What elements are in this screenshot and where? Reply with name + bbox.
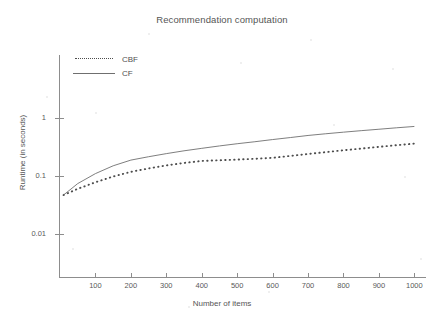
x-tick-mark — [379, 273, 380, 278]
legend-swatch-solid-icon — [72, 68, 116, 78]
x-tick-label: 700 — [288, 281, 328, 290]
y-tick-mark — [55, 234, 64, 235]
scan-speck — [310, 39, 312, 41]
x-tick-mark — [414, 273, 415, 278]
x-tick-label: 500 — [217, 281, 257, 290]
x-axis-title: Number of items — [0, 299, 444, 308]
x-tick-mark — [308, 273, 309, 278]
y-tick-label: 0.01 — [0, 229, 46, 238]
legend-item-cbf[interactable]: CBF — [72, 52, 192, 66]
scan-speck — [420, 258, 422, 260]
scan-speck — [148, 33, 150, 35]
scan-speck — [268, 291, 270, 293]
scan-speck — [404, 176, 406, 178]
scan-speck — [333, 124, 335, 126]
chart-title: Recommendation computation — [0, 14, 444, 25]
x-axis-line — [59, 277, 426, 278]
y-axis-title: Runtime (in seconds) — [18, 83, 27, 223]
series-plot — [0, 0, 444, 324]
x-tick-mark — [202, 273, 203, 278]
x-tick-mark — [166, 273, 167, 278]
x-tick-mark — [343, 273, 344, 278]
x-tick-label: 900 — [359, 281, 399, 290]
series-line-cf — [64, 126, 415, 195]
y-axis-line — [59, 55, 60, 278]
scan-speck — [392, 68, 394, 70]
legend-item-cf[interactable]: CF — [72, 66, 192, 80]
legend-swatch-dotted-icon — [72, 54, 116, 64]
chart-figure: Recommendation computation 10.10.01 1002… — [0, 0, 444, 324]
x-tick-label: 600 — [253, 281, 293, 290]
x-tick-mark — [237, 273, 238, 278]
x-tick-mark — [95, 273, 96, 278]
x-tick-mark — [131, 273, 132, 278]
legend-label: CBF — [116, 55, 138, 64]
x-tick-label: 1000 — [394, 281, 434, 290]
x-tick-label: 100 — [75, 281, 115, 290]
y-tick-mark — [55, 176, 64, 177]
legend-label: CF — [116, 69, 133, 78]
scan-speck — [95, 112, 97, 114]
x-tick-label: 800 — [323, 281, 363, 290]
x-tick-mark — [273, 273, 274, 278]
x-tick-label: 200 — [111, 281, 151, 290]
scan-speck — [240, 62, 242, 64]
scan-speck — [46, 96, 48, 98]
x-tick-label: 400 — [182, 281, 222, 290]
scan-speck — [188, 306, 190, 308]
y-tick-mark — [55, 118, 64, 119]
x-tick-label: 300 — [146, 281, 186, 290]
chart-legend: CBF CF — [72, 52, 192, 80]
scan-speck — [72, 248, 74, 250]
series-line-cbf — [64, 144, 415, 195]
